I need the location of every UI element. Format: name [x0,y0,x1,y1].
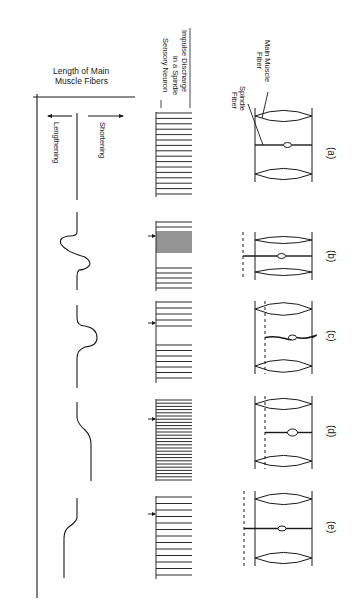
impulse-block-c [148,301,192,383]
muscle-spindle-diagram: Length of Main Muscle Fibers Lengthening… [0,0,358,611]
main-muscle-fiber [255,552,312,563]
main-muscle-fiber [255,493,312,504]
stimulus-arrowhead [152,234,156,238]
panel-a [255,108,312,182]
stimulus-arrowhead [152,321,156,325]
main-muscle-fiber [255,269,312,276]
spindle-nucleus [278,254,286,259]
stimulus-arrowhead [152,417,156,421]
panel-d [255,396,312,469]
panel-label: (c) [326,330,337,342]
panel-label: (b) [326,250,337,262]
shortening-label: Shortening [98,122,107,158]
panel-label: (a) [326,147,337,159]
main-muscle-fiber [255,237,312,244]
impulse-block-d [148,399,192,481]
length-axis-title-line2: Muscle Fibers [55,76,108,86]
spindle-fiber-label-line2: Fiber [230,92,239,110]
stimulus-arrowhead [152,512,156,516]
impulse-block-e [148,496,192,579]
lengthening-arrowhead [47,114,52,118]
length-axis [33,94,135,598]
length-trace-c [77,305,97,388]
main-muscle-fiber [255,398,312,409]
lengthening-label: Lengthening [52,122,61,163]
panel-label: (e) [326,521,337,533]
main-muscle-fiber [255,303,312,316]
panel-label: (d) [326,425,337,437]
impulse-title-line3: Sensory Neuron [161,38,170,92]
length-trace-e [64,498,77,578]
impulse-title-line1: Impulse Discharge [180,30,189,92]
impulse-block-b [148,221,192,291]
spindle-nucleus [284,143,292,148]
main-muscle-fiber [255,168,312,179]
main-muscle-fiber-label-line2: Fiber [255,52,264,70]
impulse-discharge-raster [148,112,192,579]
spindle-nucleus [288,429,298,436]
shortening-arrowhead [119,114,124,118]
panel-e [244,491,312,566]
spindle-nucleus [278,526,286,531]
length-trace-b [60,212,90,290]
panel-c [255,301,316,374]
length-axis-title-line1: Length of Main [53,66,110,76]
muscle-panels: (a)(b)(c)(d)(e) [243,108,337,566]
main-muscle-fiber [255,455,312,466]
main-muscle-pointer [262,92,268,118]
main-muscle-fiber [255,360,312,373]
length-trace-d [77,402,91,480]
impulse-title-line2: in a Spindle [171,56,180,95]
impulse-block-a [156,112,192,197]
spindle-nucleus [289,335,297,340]
panel-b [243,232,312,280]
